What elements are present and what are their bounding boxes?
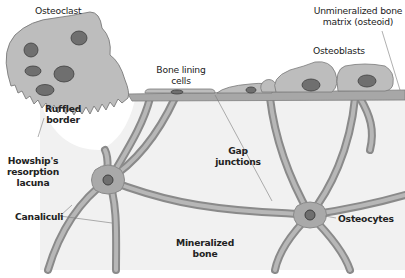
label-mineralized-line1: Mineralized [170,237,240,248]
label-bone-lining-line1: Bone lining [148,64,214,75]
osteoclast-nucleus [71,31,87,45]
label-gap-line2: junctions [208,156,268,167]
label-ruffled-line2: border [38,114,88,125]
bone-cells-diagram: Osteoclast Unmineralized bone matrix (os… [0,0,405,278]
label-osteoclast: Osteoclast [35,5,82,16]
label-howship-line1: Howship's [2,155,64,166]
label-mineralized-bone: Mineralized bone [170,237,240,259]
osteocyte-nucleus [103,175,113,185]
label-howship-line2: resorption [2,166,64,177]
label-mineralized-line2: bone [170,248,240,259]
label-osteoblasts: Osteoblasts [313,45,365,56]
label-howship-line3: lacuna [2,177,64,188]
label-osteocytes: Osteocytes [338,213,394,224]
osteoclast-nucleus [54,66,74,82]
label-gap-line1: Gap [208,145,268,156]
osteocyte-nucleus [305,210,315,220]
osteoblasts [261,62,394,92]
osteoclast-nucleus [36,85,54,96]
label-bone-lining-line2: cells [148,75,214,86]
osteoclast-nucleus [25,66,41,76]
label-ruffled-line1: Ruffled [38,103,88,114]
label-unmineralized-matrix: Unmineralized bone matrix (osteoid) [303,5,405,27]
label-ruffled-border: Ruffled border [38,103,88,125]
osteocyte-right [294,202,327,228]
label-canaliculi: Canaliculi [15,211,63,222]
label-gap-junctions: Gap junctions [208,145,268,167]
label-unmineralized-line2: matrix (osteoid) [303,16,405,27]
label-unmineralized-line1: Unmineralized bone [303,5,405,16]
label-howships-lacuna: Howship's resorption lacuna [2,155,64,188]
osteocyte-left [92,165,125,194]
osteoclast-nucleus [24,43,38,57]
label-bone-lining-cells: Bone lining cells [148,64,214,86]
